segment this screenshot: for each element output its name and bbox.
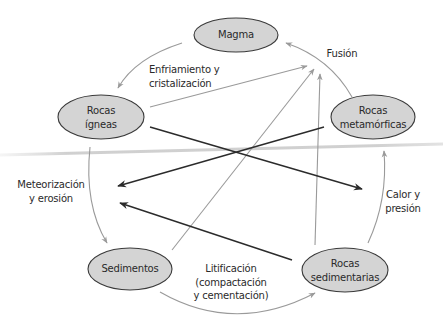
edge-label-meteorizacion: Meteorización y erosión: [17, 178, 84, 205]
scan-smudge: [0, 144, 443, 155]
label-line: Rocas: [85, 104, 117, 118]
node-rocas-sedimentarias-label: Rocas sedimentarias: [311, 257, 379, 284]
edge-label-enfriamiento: Enfriamiento y cristalización: [149, 63, 220, 90]
arrow-igneas-to-calor: [150, 127, 362, 189]
label-line: y erosión: [17, 191, 84, 205]
label-line: Sedimentos: [101, 262, 158, 276]
label-line: metamórficas: [340, 117, 407, 131]
node-rocas-igneas-label: Rocas ígneas: [85, 104, 117, 131]
node-rocas-metamorficas-label: Rocas metamórficas: [340, 104, 407, 131]
edge-label-calor: Calor y presión: [385, 188, 420, 215]
arrow-meteorizacion: [89, 147, 107, 243]
label-line: y cementación): [194, 289, 269, 303]
label-line: Rocas: [311, 257, 379, 271]
label-line: sedimentarias: [311, 270, 379, 284]
label-line: ígneas: [85, 117, 117, 131]
edge-label-litificacion: Litificación (compactación y cementación…: [194, 262, 269, 303]
label-line: cristalización: [149, 76, 220, 90]
node-sedimentos-label: Sedimentos: [101, 262, 158, 276]
label-line: presión: [385, 201, 420, 215]
arrow-sedimentarias-to-fusion: [315, 74, 320, 245]
label-line: Enfriamiento y: [149, 63, 220, 77]
edge-label-fusion: Fusión: [327, 47, 358, 61]
label-line: Magma: [218, 28, 254, 42]
rock-cycle-diagram: Magma Rocas ígneas Rocas metamórficas Se…: [0, 0, 443, 326]
label-line: Rocas: [340, 104, 407, 118]
label-line: Meteorización: [17, 178, 84, 192]
label-line: Litificación: [194, 262, 269, 276]
arrow-calor: [368, 151, 385, 243]
label-line: (compactación: [194, 275, 269, 289]
label-line: Fusión: [327, 47, 358, 61]
node-magma-label: Magma: [218, 28, 254, 42]
arrow-metamorficas-to-meteorizacion: [118, 127, 324, 186]
label-line: Calor y: [385, 188, 420, 202]
